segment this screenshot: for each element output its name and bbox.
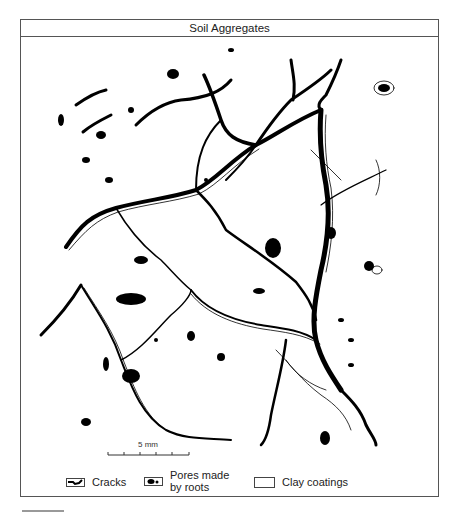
crack-main-left [66,110,321,247]
crack-bottom-right [341,390,376,445]
pore [105,177,113,183]
pore [122,369,140,383]
legend: Cracks Pores made by roots Clay coatings [21,468,438,496]
pore [81,418,91,426]
crack-swatch-icon [66,478,85,487]
crack-right-vertical [314,110,341,390]
pore [128,107,134,113]
crack-upper-center [204,75,256,145]
pore [348,363,354,367]
pore [348,338,354,342]
pore [228,48,234,52]
legend-item-pores: Pores made by roots [144,469,229,493]
pore-swatch-icon [144,477,163,486]
crack-diag-center [196,190,316,320]
pore [134,256,148,264]
crack-upper-left-small [76,90,111,132]
pore [96,131,106,139]
pore [103,357,109,371]
legend-label-pores: Pores made by roots [170,469,229,493]
legend-label-clay: Clay coatings [282,476,348,488]
crack-top-right-branch [291,60,341,110]
crack-lower-right [261,340,286,445]
pore [378,84,390,92]
clay-swatch-icon [254,477,275,488]
pore [217,353,225,361]
pore [364,261,374,271]
scale-bar-label: 5 mm [138,440,158,449]
crack-mid-horizontal [191,290,316,340]
pore [320,431,330,445]
scale-bar [108,452,189,455]
clay-outline-4 [191,294,320,344]
legend-label-cracks: Cracks [92,476,126,488]
crack-left-edge [41,285,81,335]
pore [167,69,179,79]
legend-item-clay: Clay coatings [254,476,348,488]
soil-aggregate-drawing [21,20,440,498]
pore [154,338,158,342]
figure-frame: Soil Aggregates [20,19,439,497]
crack-center-left [116,208,191,290]
pore [82,157,90,163]
pore [338,318,344,322]
pore [265,238,281,258]
pore [187,331,195,341]
pore [58,114,64,126]
pore [204,178,208,182]
footer-mark [22,510,64,512]
legend-item-cracks: Cracks [66,476,126,488]
pore [253,288,265,294]
pore [326,227,336,239]
pore [116,293,146,305]
